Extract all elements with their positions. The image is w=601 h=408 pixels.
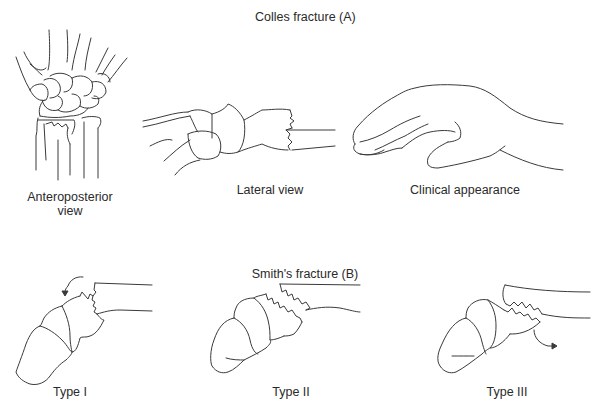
smiths-type-3-drawing [0,0,601,408]
type-3-label: Type III [480,385,534,399]
